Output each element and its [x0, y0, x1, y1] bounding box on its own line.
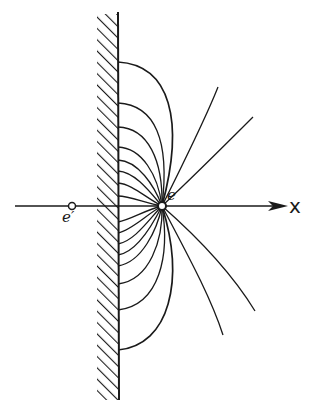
- charge-label: e: [167, 186, 176, 204]
- charge-e-marker: [158, 202, 166, 210]
- axis-label: x: [289, 194, 301, 218]
- field-diagram: [0, 0, 313, 406]
- image-charge-label: e′: [62, 208, 74, 226]
- conducting-wall-hatching: [97, 14, 118, 400]
